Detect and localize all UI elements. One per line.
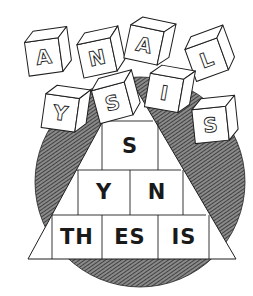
- analysis-synthesis-illustration: S Y N TH ES IS ANALYSIS: [0, 0, 253, 296]
- pyramid-cell-y: Y: [95, 180, 112, 204]
- pyramid-cell-th: TH: [60, 225, 94, 249]
- pyramid-cell-n: N: [148, 180, 167, 204]
- letter-cube: A: [124, 15, 176, 67]
- letter-cube: N: [75, 26, 127, 78]
- letter-cube: S: [191, 95, 239, 143]
- pyramid-cell-is: IS: [172, 225, 197, 249]
- cube-letter: S: [202, 112, 219, 137]
- letter-cube: A: [23, 26, 73, 76]
- pyramid-cell-s: S: [122, 134, 138, 158]
- pyramid-cell-es: ES: [114, 225, 145, 249]
- letter-cube: Y: [41, 84, 91, 134]
